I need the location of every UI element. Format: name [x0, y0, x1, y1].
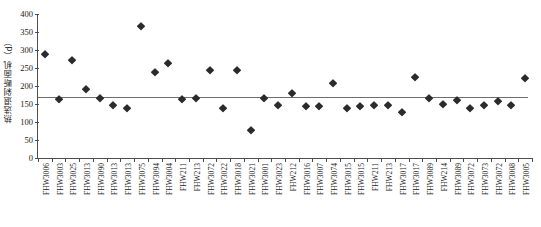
data-point [343, 104, 351, 112]
x-axis-tick-label: FHW3015 [359, 163, 367, 195]
x-axis-tick-label: FHW3005 [523, 163, 531, 195]
x-axis-tick-mark [518, 158, 519, 162]
x-axis-tick-mark [367, 158, 368, 162]
x-axis-tick-mark [285, 158, 286, 162]
y-axis-tick-label: 200 [3, 82, 38, 91]
y-axis-tick-label: 50 [3, 136, 38, 145]
x-axis-tick-label: FHW3074 [331, 163, 339, 195]
x-axis-tick-mark [312, 158, 313, 162]
x-axis-tick-label: FHW3023 [276, 163, 284, 195]
data-point [192, 94, 200, 102]
x-axis-tick-label: FHW3025 [71, 163, 79, 195]
data-point [110, 101, 118, 109]
data-point [480, 101, 488, 109]
x-axis-tick-label: FHW3007 [318, 163, 326, 195]
x-axis-tick-label: FHW3089 [455, 163, 463, 195]
x-axis-tick-mark [175, 158, 176, 162]
y-axis-tick-label: 250 [3, 64, 38, 73]
x-axis-tick-mark [491, 158, 492, 162]
x-axis-tick-mark [436, 158, 437, 162]
plot-area: 050100150200250300350400 [37, 14, 532, 159]
x-axis-tick-mark [120, 158, 121, 162]
x-axis-tick-mark [477, 158, 478, 162]
x-axis-tick-mark [107, 158, 108, 162]
data-point [453, 96, 461, 104]
y-axis-tick-mark [35, 14, 39, 15]
x-axis-tick-label: FHW214 [441, 163, 449, 191]
data-point [439, 100, 447, 108]
data-point [384, 101, 392, 109]
data-point [164, 59, 172, 67]
x-axis-tick-label: FHW3073 [482, 163, 490, 195]
data-point [151, 68, 159, 76]
y-axis-tick-mark [35, 104, 39, 105]
data-point [219, 104, 227, 112]
x-axis-tick-mark [299, 158, 300, 162]
x-axis-tick-label: FHW211 [180, 163, 188, 191]
x-axis-tick-mark [52, 158, 53, 162]
data-point [82, 85, 90, 93]
x-axis-tick-label: FHW3006 [43, 163, 51, 195]
x-axis-tick-mark [258, 158, 259, 162]
y-axis-tick-label: 150 [3, 100, 38, 109]
x-axis-tick-mark [93, 158, 94, 162]
data-point [137, 22, 145, 30]
data-point [370, 101, 378, 109]
data-point [425, 94, 433, 102]
data-point [494, 97, 502, 105]
x-axis-tick-label: FHW3004 [167, 163, 175, 195]
x-axis-tick-mark [505, 158, 506, 162]
y-axis-tick-label: 400 [3, 10, 38, 19]
x-axis-tick-label: FHW3013 [125, 163, 133, 195]
x-axis-tick-mark [216, 158, 217, 162]
data-point [507, 101, 515, 109]
data-point [398, 108, 406, 116]
x-axis-tick-label: FHW3072 [468, 163, 476, 195]
y-axis-tick-mark [35, 86, 39, 87]
x-axis-tick-label: FHW213 [386, 163, 394, 191]
y-axis-tick-label: 0 [3, 154, 38, 163]
x-axis-tick-mark [65, 158, 66, 162]
x-axis-tick-mark [450, 158, 451, 162]
y-axis-tick-mark [35, 50, 39, 51]
x-axis-tick-label: FHW3075 [139, 163, 147, 195]
chart-container: 热选退剁断面机（d） 050100150200250300350400 FHW3… [0, 0, 541, 227]
x-axis-tick-label: FHW3022 [221, 163, 229, 195]
x-axis-tick-mark [148, 158, 149, 162]
x-axis-tick-mark [354, 158, 355, 162]
x-axis-tick-mark [134, 158, 135, 162]
x-axis-tick-mark [395, 158, 396, 162]
data-point [466, 104, 474, 112]
x-axis-tick-mark [381, 158, 382, 162]
data-point [247, 126, 255, 134]
x-axis-tick-label: FHW3017 [400, 163, 408, 195]
x-axis-tick-mark [326, 158, 327, 162]
data-point [260, 94, 268, 102]
x-axis-tick-label: FHW3013 [112, 163, 120, 195]
y-axis-tick-label: 350 [3, 28, 38, 37]
data-point [521, 74, 529, 82]
data-point [357, 102, 365, 110]
data-point [233, 66, 241, 74]
data-point [302, 102, 310, 110]
x-axis-tick-mark [38, 158, 39, 162]
x-axis-tick-label: FHW3089 [427, 163, 435, 195]
x-axis-tick-mark [189, 158, 190, 162]
x-axis-tick-mark [532, 158, 533, 162]
data-point [123, 104, 131, 112]
x-axis-tick-label: FHW3072 [208, 163, 216, 195]
x-axis-tick-label: FHW211 [372, 163, 380, 191]
data-point [274, 101, 282, 109]
data-point [329, 79, 337, 87]
x-axis-tick-mark [230, 158, 231, 162]
x-axis-tick-label: FHW3001 [263, 163, 271, 195]
y-axis-tick-mark [35, 68, 39, 69]
x-axis-tick-mark [340, 158, 341, 162]
y-axis-tick-mark [35, 122, 39, 123]
x-axis-tick-label: FHW3017 [414, 163, 422, 195]
x-axis-tick-label: FHW3003 [57, 163, 65, 195]
x-axis-tick-label: FHW212 [290, 163, 298, 191]
x-axis-tick-label: FHW3072 [496, 163, 504, 195]
x-axis-tick-mark [162, 158, 163, 162]
x-axis-tick-label: FHW3090 [98, 163, 106, 195]
